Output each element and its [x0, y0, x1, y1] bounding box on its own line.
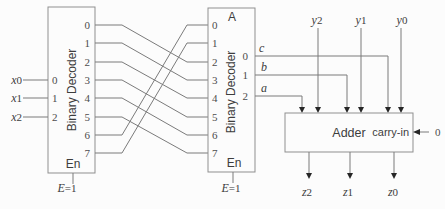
c-wire: [255, 56, 388, 107]
middle-decoder-output-pin-2: 2: [243, 90, 249, 102]
left-decoder-title: Binary Decoder: [65, 49, 79, 132]
left-decoder-input-pin-1: 1: [52, 92, 58, 104]
circuit-diagram: Binary Decoder En x0 x1 x2 0 1 2 0 1 2 3…: [0, 0, 445, 209]
c-wire-label: c: [259, 41, 265, 55]
left-decoder-output-pin-3: 3: [85, 74, 91, 86]
middle-decoder-title: Binary Decoder: [224, 51, 238, 134]
middle-decoder-input-pin-5: 5: [212, 111, 218, 123]
a-wire-arrowhead-icon: [299, 107, 305, 113]
b-wire: [255, 75, 347, 107]
left-decoder-output-pin-7: 7: [85, 147, 91, 159]
carry-in-arrowhead-icon: [413, 129, 420, 135]
middle-decoder-enable-value: E=1: [220, 181, 240, 195]
y0-label: y0: [396, 13, 408, 27]
encoder-output-wires: c b a: [255, 41, 391, 113]
z1-label: z1: [342, 185, 353, 199]
z0-label: z0: [387, 185, 399, 199]
middle-decoder-input-pin-3: 3: [212, 74, 218, 86]
left-decoder-output-pin-2: 2: [85, 56, 91, 68]
left-decoder-output-pin-1: 1: [85, 37, 91, 49]
b-wire-arrowhead-icon: [344, 107, 350, 113]
left-decoder-input-pin-0: 0: [52, 74, 58, 86]
left-decoder-output-pin-6: 6: [85, 129, 91, 141]
middle-decoder-input-pin-7: 7: [212, 147, 218, 159]
y1-label: y1: [355, 13, 367, 27]
a-wire-label: a: [261, 81, 267, 95]
z1-arrowhead-icon: [347, 173, 353, 179]
x0-label: x0: [10, 73, 22, 87]
y2-label: y2: [311, 13, 323, 27]
middle-decoder-input-pin-0: 0: [212, 19, 218, 31]
y1-arrowhead-icon: [358, 107, 364, 113]
adder: Adder carry-in 0: [285, 113, 441, 152]
left-decoder-enable-value: E=1: [56, 181, 76, 195]
left-decoder-enable-label: En: [66, 157, 81, 171]
circuit-figure: Binary Decoder En x0 x1 x2 0 1 2 0 1 2 3…: [0, 0, 445, 209]
carry-in-value: 0: [435, 126, 441, 138]
a-wire: [255, 96, 302, 107]
middle-decoder-corner-label: A: [228, 10, 236, 24]
y2-arrowhead-icon: [315, 107, 321, 113]
z0-arrowhead-icon: [391, 173, 397, 179]
left-decoder-output-pin-5: 5: [85, 111, 91, 123]
middle-decoder-input-pin-1: 1: [212, 37, 218, 49]
adder-label: Adder: [332, 126, 365, 140]
middle-decoder-output-pin-0: 0: [243, 50, 249, 62]
z2-label: z2: [301, 185, 312, 199]
x2-label: x2: [10, 110, 22, 124]
middle-decoder: A Binary Decoder En 0 1 2 3 4 5 6 7 0 1 …: [208, 8, 255, 195]
y0-arrowhead-icon: [398, 107, 404, 113]
x1-label: x1: [10, 91, 22, 105]
z2-arrowhead-icon: [306, 173, 312, 179]
decoder-interconnect: [95, 25, 208, 153]
middle-decoder-input-pin-2: 2: [212, 56, 218, 68]
left-decoder-output-pin-0: 0: [85, 19, 91, 31]
middle-decoder-input-pin-6: 6: [212, 129, 218, 141]
middle-decoder-input-pin-4: 4: [212, 92, 218, 104]
c-wire-arrowhead-icon: [385, 107, 391, 113]
y-inputs: y2 y1 y0: [311, 13, 408, 113]
middle-decoder-output-pin-1: 1: [243, 69, 249, 81]
left-decoder: Binary Decoder En x0 x1 x2 0 1 2 0 1 2 3…: [10, 7, 95, 195]
carry-in-label: carry-in: [372, 126, 409, 138]
middle-decoder-enable-label: En: [227, 156, 242, 170]
b-wire-label: b: [261, 60, 267, 74]
z-outputs: z2 z1 z0: [301, 152, 399, 199]
left-decoder-input-pin-2: 2: [52, 111, 58, 123]
left-decoder-output-pin-4: 4: [85, 92, 91, 104]
